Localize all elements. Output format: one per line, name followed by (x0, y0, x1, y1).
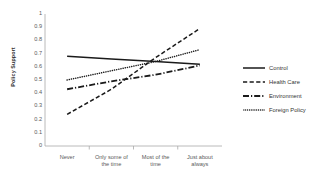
legend-label: Health Care (269, 79, 300, 85)
axis-lines (45, 14, 222, 146)
x-tick-marks (89, 146, 178, 150)
legend-label: Environment (269, 93, 302, 99)
series-line-environment (67, 65, 200, 89)
x-tick-label-line1: Never (45, 154, 89, 161)
x-tick-label: Never (45, 154, 89, 161)
legend-item-foreign-policy[interactable]: Foreign Policy (243, 103, 321, 117)
series-line-health-care (67, 29, 200, 115)
data-series (67, 29, 200, 115)
x-tick-label: Just aboutalways (178, 154, 222, 168)
legend-key-icon (243, 106, 265, 114)
legend-label: Control (269, 65, 288, 71)
x-tick-label-line2: the time (89, 161, 133, 168)
chart-legend: ControlHealth CareEnvironmentForeign Pol… (243, 61, 321, 117)
chart-figure: Policy Support 10.90.80.70.60.50.40.30.2… (0, 0, 321, 185)
x-tick-label: Only some ofthe time (89, 154, 133, 168)
legend-key-icon (243, 78, 265, 86)
x-tick-label-line2: time (134, 161, 178, 168)
x-tick-label-line1: Only some of (89, 154, 133, 161)
x-tick-label: Most of thetime (134, 154, 178, 168)
legend-key-icon (243, 64, 265, 72)
legend-item-environment[interactable]: Environment (243, 89, 321, 103)
series-line-control (67, 56, 200, 64)
legend-item-health-care[interactable]: Health Care (243, 75, 321, 89)
series-line-foreign-policy (67, 50, 200, 80)
legend-item-control[interactable]: Control (243, 61, 321, 75)
x-tick-label-line1: Just about (178, 154, 222, 161)
x-tick-label-line2: always (178, 161, 222, 168)
legend-key-icon (243, 92, 265, 100)
legend-label: Foreign Policy (269, 107, 306, 113)
x-tick-label-line1: Most of the (134, 154, 178, 161)
